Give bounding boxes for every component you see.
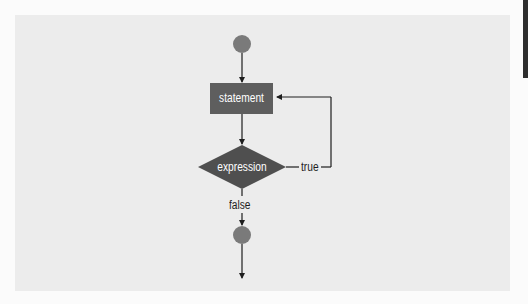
do-while-flowchart bbox=[0, 0, 528, 304]
expression-label: expression bbox=[211, 161, 272, 173]
statement-label: statement bbox=[215, 92, 269, 104]
true-edge-label: true bbox=[301, 161, 319, 173]
end-node-circle bbox=[233, 226, 251, 244]
textbook-page: statement expression true false bbox=[0, 0, 528, 304]
start-node-circle bbox=[233, 35, 251, 53]
false-edge-label: false bbox=[229, 199, 251, 211]
